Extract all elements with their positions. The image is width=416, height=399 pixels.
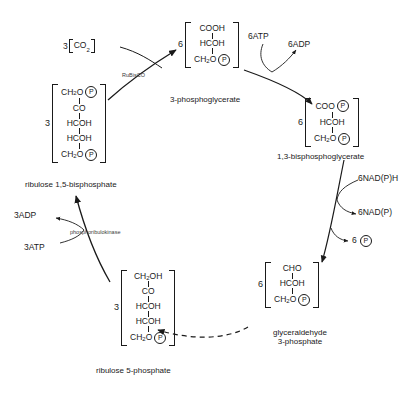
arrow-co2-in (120, 47, 162, 68)
ru5p-group-2: CO (142, 287, 155, 296)
caption-ribulose-5-phosphate: ribulose 5-phosphate (96, 366, 171, 375)
ru5p-brackets: CH2OH CO HCOH HCOH CH2OP (121, 270, 175, 346)
arrow-bpg-to-g3p (322, 160, 344, 262)
pga-g3-sub: 2 (206, 58, 209, 64)
enzyme-rubisco-label: RuBisCO (122, 72, 145, 78)
bpg-coefficient: 6 (298, 118, 303, 127)
bpg-group-1: COOP (315, 100, 348, 112)
pga-g3-main: CH (194, 55, 206, 64)
ru5p-g1-main: CH (134, 272, 146, 281)
rubp-group-4: HCOH (67, 134, 92, 143)
ru5p-g5-tail: O (146, 333, 153, 342)
g3p-brackets: CHO HCOH CH2OP (265, 262, 319, 308)
molecule-1-3-bisphosphoglycerate: 6 COOP HCOH CH2OP (298, 98, 359, 147)
caption-1-3-bisphosphoglycerate: 1,3-bisphosphoglycerate (277, 152, 364, 161)
rubp-g5-sub: 2 (73, 153, 76, 159)
rubp-g5-tail: O (77, 150, 84, 159)
co2-subscript: 2 (86, 47, 89, 53)
rubp-group-5: CH2OP (61, 149, 97, 161)
bpg-g3-tail: O (330, 134, 337, 143)
pi-coefficient: 6 (352, 236, 357, 245)
molecule-ribulose-5-phosphate: 3 CH2OH CO HCOH HCOH CH2OP (114, 270, 175, 346)
label-6atp-top: 6ATP (248, 32, 269, 41)
pga-chain: COOH HCOH CH2OP (194, 24, 230, 66)
rubp-g1-sub: 2 (73, 90, 76, 96)
rubp-group-2: CO (73, 104, 86, 113)
arrow-pi-out (331, 228, 348, 241)
arrow-nadph-in (337, 180, 358, 200)
ru5p-g5-sub: 2 (142, 336, 145, 342)
g3p-g3-main: CH (274, 295, 286, 304)
arrow-atp-in-top (261, 44, 272, 72)
arrow-ru5p-to-rubp (76, 196, 110, 282)
molecule-ribulose-1-5-bisphosphate: 3 CH2OP CO HCOH HCOH CH2OP (45, 84, 106, 163)
g3p-group-3: CH2OP (274, 294, 310, 306)
rubp-group-1: CH2OP (61, 86, 97, 98)
enzyme-phosphoribulokinase-label: phosphoribulokinase (70, 229, 120, 235)
caption-glyceraldehyde-3-phosphate: glyceraldehyde 3-phosphate (258, 328, 342, 347)
bpg-g1-main: COO (315, 102, 334, 111)
label-6nadp: 6NAD(P) (358, 208, 392, 217)
caption-3-phosphoglycerate: 3-phosphoglycerate (170, 95, 240, 104)
g3p-coefficient: 6 (258, 280, 263, 289)
phosphate-icon: P (337, 100, 349, 112)
ru5p-group-4: HCOH (136, 317, 161, 326)
rubp-g5-main: CH (61, 150, 73, 159)
label-6-pi: 6 P (352, 235, 372, 247)
co2-bracketed: CO2 (69, 39, 95, 53)
phosphate-icon: P (85, 86, 97, 98)
calvin-cycle-diagram: 3 CO2 RuBisCO 3 CH2OP CO HCOH HCOH CH2OP… (0, 0, 416, 399)
co2-input-label: 3 CO2 (63, 39, 95, 53)
phosphate-icon: P (298, 294, 310, 306)
ru5p-g1-tail: OH (150, 272, 163, 281)
pga-brackets: COOH HCOH CH2OP (185, 22, 239, 68)
rubp-chain: CH2OP CO HCOH HCOH CH2OP (61, 86, 97, 161)
g3p-group-1: CHO (283, 264, 302, 273)
ru5p-g5-main: CH (130, 333, 142, 342)
g3p-group-2: HCOH (280, 279, 305, 288)
phosphate-icon: P (218, 54, 230, 66)
arrow-nadp-out (337, 200, 356, 214)
g3p-g3-tail: O (290, 295, 297, 304)
ru5p-group-1: CH2OH (134, 272, 162, 281)
pga-group-3: CH2OP (194, 54, 230, 66)
label-3adp: 3ADP (14, 211, 36, 220)
bpg-brackets: COOP HCOH CH2OP (305, 98, 359, 147)
phosphate-icon: P (338, 133, 350, 145)
pga-g3-tail: O (210, 55, 217, 64)
label-6adp-top: 6ADP (288, 40, 310, 49)
rubp-brackets: CH2OP CO HCOH HCOH CH2OP (52, 84, 106, 163)
rubp-group-3: HCOH (67, 119, 92, 128)
bpg-g3-sub: 2 (326, 137, 329, 143)
caption-g3p-line1: glyceraldehyde (273, 328, 327, 337)
rubp-coefficient: 3 (45, 119, 50, 128)
phosphate-icon: P (85, 149, 97, 161)
co2-formula: CO (74, 40, 87, 50)
molecule-3-phosphoglycerate: 6 COOH HCOH CH2OP (178, 22, 239, 68)
caption-g3p-line2: 3-phosphate (278, 337, 322, 346)
pga-group-1: COOH (199, 24, 225, 33)
rubp-g1-tail: O (77, 88, 84, 97)
bpg-group-3: CH2OP (314, 133, 350, 145)
ru5p-chain: CH2OH CO HCOH HCOH CH2OP (130, 272, 166, 344)
g3p-g3-sub: 2 (286, 298, 289, 304)
phosphate-icon: P (154, 332, 166, 344)
ru5p-coefficient: 3 (114, 303, 119, 312)
phosphate-icon: P (360, 235, 372, 247)
pga-group-2: HCOH (200, 39, 225, 48)
caption-ribulose-1-5-bisphosphate: ribulose 1,5-bisphosphate (25, 180, 117, 189)
bpg-g3-main: CH (314, 134, 326, 143)
rubp-g1-main: CH (61, 88, 73, 97)
bpg-group-2: HCOH (320, 118, 345, 127)
label-3atp: 3ATP (24, 243, 45, 252)
g3p-chain: CHO HCOH CH2OP (274, 264, 310, 306)
bpg-chain: COOP HCOH CH2OP (314, 100, 350, 145)
pga-coefficient: 6 (178, 40, 183, 49)
molecule-glyceraldehyde-3-phosphate: 6 CHO HCOH CH2OP (258, 262, 319, 308)
ru5p-group-5: CH2OP (130, 332, 166, 344)
ru5p-g1-sub: 2 (146, 275, 149, 281)
ru5p-group-3: HCOH (136, 302, 161, 311)
label-6nadph: 6NAD(P)H (358, 174, 398, 183)
arrow-adp-out-top (272, 50, 296, 72)
co2-coefficient: 3 (63, 41, 68, 51)
